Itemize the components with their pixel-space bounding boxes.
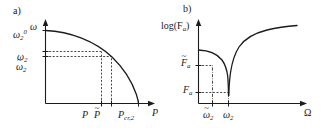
two-panel-figure: a) ω ω20 ω2 ~ω2 P ~P Pcr,2 P [0, 0, 331, 128]
panel-a-guides [46, 52, 112, 104]
panel-b-vguides [213, 66, 229, 104]
panel-b-curve-right [229, 26, 297, 96]
panel-a-plot [0, 0, 166, 128]
panel-b-axes [199, 24, 302, 104]
panel-a-axes [46, 24, 151, 104]
panel-a-x-arrow [148, 101, 155, 106]
panel-a: a) ω ω20 ω2 ~ω2 P ~P Pcr,2 P [0, 0, 166, 128]
panel-b-guides [199, 66, 229, 93]
panel-b: b) log(Fa) ~Fa Fa ~ω2 ω2 Ω [165, 0, 331, 128]
panel-a-curve [46, 31, 139, 104]
panel-a-y-arrow [43, 19, 48, 26]
panel-b-curve-left [199, 50, 229, 96]
panel-b-y-arrow [196, 19, 201, 26]
panel-b-plot [165, 0, 331, 128]
panel-b-x-arrow [300, 101, 307, 106]
